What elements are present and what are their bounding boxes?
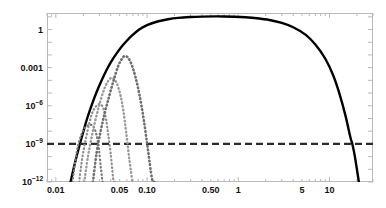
y-tick-label-2: 10−6	[26, 101, 43, 111]
x-tick-label-4: 1	[236, 185, 241, 195]
chart-figure: 10.00110−610−910−12 0.010.050.100.501510	[0, 0, 386, 208]
x-tick-label-0: 0.01	[47, 185, 65, 195]
y-axis-labels: 10.00110−610−910−12	[0, 13, 43, 182]
y-tick-label-0: 1	[38, 25, 43, 35]
dotted-curve-4	[93, 56, 154, 182]
plot-area	[47, 13, 373, 182]
x-tick-label-6: 10	[324, 185, 334, 195]
x-tick-label-3: 0.50	[202, 185, 220, 195]
y-tick-label-1: 0.001	[20, 63, 43, 73]
x-tick-label-2: 0.10	[138, 185, 156, 195]
chart-canvas	[47, 13, 373, 182]
x-axis-labels: 0.010.050.100.501510	[47, 185, 373, 199]
main-curve	[71, 16, 359, 182]
x-tick-label-1: 0.05	[111, 185, 129, 195]
y-tick-label-3: 10−9	[26, 139, 43, 149]
y-tick-label-4: 10−12	[22, 177, 43, 187]
x-tick-label-5: 5	[300, 185, 305, 195]
